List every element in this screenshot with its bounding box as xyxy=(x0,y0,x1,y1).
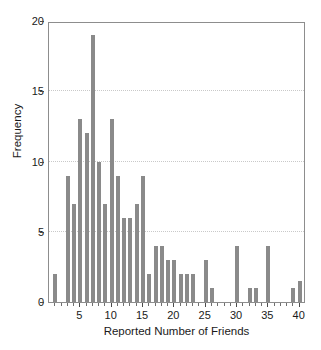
bar xyxy=(204,260,208,302)
x-tick-minor xyxy=(192,303,193,306)
x-axis-tick-labels: 510152025303540 xyxy=(48,309,305,323)
x-tick-minor xyxy=(148,303,149,306)
x-tick-minor xyxy=(242,303,243,306)
x-tick-label: 10 xyxy=(98,309,124,321)
x-tick-minor xyxy=(136,303,137,306)
bar xyxy=(110,119,114,302)
bar xyxy=(97,162,101,303)
x-tick-minor xyxy=(224,303,225,306)
x-tick-minor xyxy=(117,303,118,306)
y-tick-mark xyxy=(40,232,44,233)
x-tick-major xyxy=(142,303,143,307)
bar xyxy=(103,204,107,302)
bar xyxy=(116,176,120,302)
x-tick-major xyxy=(79,303,80,307)
x-tick-major xyxy=(299,303,300,307)
x-tick-major xyxy=(111,303,112,307)
x-tick-minor xyxy=(217,303,218,306)
x-tick-major xyxy=(236,303,237,307)
x-tick-minor xyxy=(161,303,162,306)
x-tick-major xyxy=(267,303,268,307)
x-tick-label: 20 xyxy=(160,309,186,321)
x-tick-minor xyxy=(230,303,231,306)
x-tick-label: 40 xyxy=(286,309,312,321)
x-tick-minor xyxy=(54,303,55,306)
x-tick-label: 5 xyxy=(66,309,92,321)
bar xyxy=(147,274,151,302)
bar xyxy=(66,176,70,302)
x-tick-minor xyxy=(123,303,124,306)
x-tick-minor xyxy=(292,303,293,306)
x-tick-label: 30 xyxy=(223,309,249,321)
y-tick-mark xyxy=(40,162,44,163)
histogram-figure: 05101520 Frequency 510152025303540 Repor… xyxy=(0,0,321,350)
x-tick-minor xyxy=(155,303,156,306)
bar-series xyxy=(49,23,304,302)
y-axis-title: Frequency xyxy=(11,51,23,211)
bar xyxy=(254,288,258,302)
bar xyxy=(78,119,82,302)
bar xyxy=(191,274,195,302)
x-tick-minor xyxy=(211,303,212,306)
bar xyxy=(141,176,145,302)
y-tick-mark xyxy=(40,21,44,22)
bar xyxy=(235,246,239,302)
bar xyxy=(248,288,252,302)
bar xyxy=(91,35,95,302)
bar xyxy=(72,204,76,302)
x-tick-major xyxy=(173,303,174,307)
x-tick-minor xyxy=(261,303,262,306)
bar xyxy=(53,274,57,302)
x-tick-minor xyxy=(286,303,287,306)
x-tick-minor xyxy=(180,303,181,306)
bar xyxy=(266,246,270,302)
x-tick-minor xyxy=(98,303,99,306)
x-tick-minor xyxy=(274,303,275,306)
x-tick-minor xyxy=(104,303,105,306)
bar xyxy=(166,260,170,302)
x-tick-minor xyxy=(255,303,256,306)
x-tick-minor xyxy=(73,303,74,306)
x-tick-minor xyxy=(167,303,168,306)
y-tick-mark xyxy=(40,91,44,92)
x-tick-minor xyxy=(86,303,87,306)
x-tick-major xyxy=(205,303,206,307)
x-tick-minor xyxy=(280,303,281,306)
x-tick-label: 25 xyxy=(192,309,218,321)
bar xyxy=(128,218,132,302)
x-tick-minor xyxy=(61,303,62,306)
bar xyxy=(172,260,176,302)
bar xyxy=(135,204,139,302)
x-tick-minor xyxy=(92,303,93,306)
x-tick-label: 35 xyxy=(254,309,280,321)
x-tick-minor xyxy=(186,303,187,306)
bar xyxy=(185,274,189,302)
bar xyxy=(210,288,214,302)
bar xyxy=(298,281,302,302)
bar xyxy=(291,288,295,302)
plot-area xyxy=(48,22,305,303)
x-tick-minor xyxy=(249,303,250,306)
bar xyxy=(85,133,89,302)
x-tick-minor xyxy=(198,303,199,306)
bar xyxy=(154,246,158,302)
y-tick-mark xyxy=(40,302,44,303)
x-axis-title: Reported Number of Friends xyxy=(48,325,305,337)
bar xyxy=(179,274,183,302)
bar xyxy=(122,218,126,302)
x-tick-label: 15 xyxy=(129,309,155,321)
x-tick-minor xyxy=(67,303,68,306)
bar xyxy=(160,246,164,302)
x-tick-minor xyxy=(129,303,130,306)
